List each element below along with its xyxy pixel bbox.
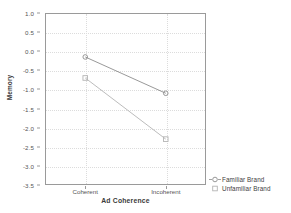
y-tick-label: -2.0 <box>23 124 34 131</box>
series-group <box>83 76 168 142</box>
y-tick-mark <box>37 70 40 71</box>
y-tick-mark <box>37 146 40 147</box>
open-circle-marker <box>209 175 222 184</box>
series-group <box>83 55 168 96</box>
y-tick-label: 0.0 <box>25 48 34 55</box>
y-tick-label: -0.5 <box>23 67 34 74</box>
legend-item[interactable]: Familiar Brand <box>209 175 291 184</box>
y-tick-label: -3.0 <box>23 162 34 169</box>
y-tick-mark <box>37 108 40 109</box>
y-tick-mark <box>37 32 40 33</box>
open-square-marker <box>209 184 222 193</box>
y-tick-label: 0.5 <box>25 29 34 36</box>
y-tick-mark <box>37 89 40 90</box>
legend-label: Unfamiliar Brand <box>222 185 271 192</box>
data-point-circle-marker <box>213 177 218 182</box>
legend-label: Familiar Brand <box>222 176 264 183</box>
y-tick-mark <box>37 51 40 52</box>
series-line <box>85 57 166 93</box>
legend-item[interactable]: Unfamiliar Brand <box>209 184 291 193</box>
y-tick-mark <box>37 127 40 128</box>
y-axis-title: Memory <box>6 58 13 118</box>
y-tick-mark <box>37 165 40 166</box>
series-line <box>85 78 166 139</box>
y-tick-label: -2.5 <box>23 143 34 150</box>
y-tick-label: -1.5 <box>23 105 34 112</box>
y-tick-mark <box>37 185 40 186</box>
y-tick-label: -1.0 <box>23 86 34 93</box>
y-tick-label: -3.5 <box>23 182 34 189</box>
data-point-square-marker <box>213 186 218 191</box>
y-tick-label: 1.0 <box>25 10 34 17</box>
legend: Familiar BrandUnfamiliar Brand <box>209 175 291 193</box>
x-axis-title: Ad Coherence <box>45 197 206 204</box>
x-tick-label: Coherent <box>73 188 98 195</box>
y-tick-mark <box>37 13 40 14</box>
interaction-plot: 1.00.50.0-0.5-1.0-1.5-2.0-2.5-3.0-3.5 Me… <box>0 0 291 213</box>
x-tick-label: Incoherent <box>151 188 180 195</box>
data-series-layer <box>45 13 206 185</box>
